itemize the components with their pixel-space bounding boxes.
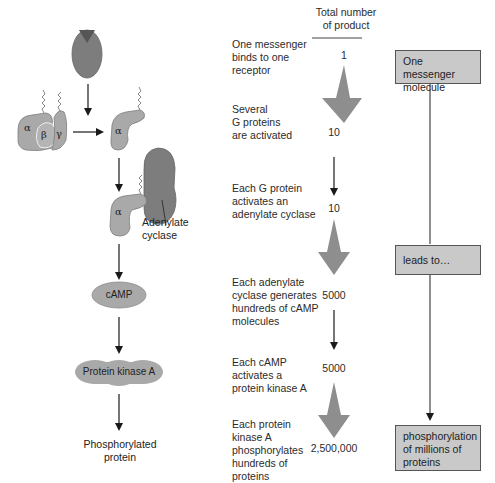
step-6-text: Each proteinkinase Aphosphorylateshundre… bbox=[232, 418, 303, 483]
count-3: 10 bbox=[299, 202, 369, 214]
adenylate-cyclase-icon bbox=[144, 148, 176, 225]
receptor-icon bbox=[72, 30, 102, 78]
pka-label: Protein kinase A bbox=[76, 366, 162, 377]
step-4-text: Each adenylatecyclase generateshundreds … bbox=[232, 276, 318, 328]
step-2-text: SeveralG proteinsare activated bbox=[232, 103, 292, 142]
big-arrow-3 bbox=[318, 382, 350, 438]
g-alpha-icon bbox=[111, 87, 145, 150]
big-arrow-2 bbox=[318, 219, 350, 275]
count-6: 2,500,000 bbox=[294, 442, 374, 454]
gamma-label: γ bbox=[56, 128, 62, 139]
big-arrow-1 bbox=[322, 65, 362, 123]
adenylate-cyclase-label: Adenylate cyclase bbox=[142, 216, 189, 242]
camp-label: cAMP bbox=[92, 289, 146, 300]
step-5-text: Each cAMPactivates aprotein kinase A bbox=[232, 356, 307, 395]
alpha-free-label: α bbox=[115, 125, 122, 136]
summary-box-messenger: One messengermolecule bbox=[395, 50, 481, 84]
summary-box-leads-to: leads to… bbox=[395, 245, 481, 275]
count-5: 5000 bbox=[299, 362, 369, 374]
alpha-label: α bbox=[24, 122, 31, 133]
count-4: 5000 bbox=[299, 289, 369, 301]
step-1-text: One messengerbinds to onereceptor bbox=[232, 38, 307, 77]
summary-box-phosphorylation: phosphorylationof millions ofproteins bbox=[395, 425, 481, 471]
phosphorylated-protein-label: Phosphorylated protein bbox=[70, 438, 170, 464]
beta-label: β bbox=[41, 129, 47, 140]
column-header: Total number of product bbox=[306, 6, 386, 32]
alpha-bound-label: α bbox=[115, 206, 122, 217]
count-2: 10 bbox=[299, 126, 369, 138]
count-1: 1 bbox=[309, 49, 379, 61]
g-protein-complex-icon bbox=[18, 90, 67, 151]
